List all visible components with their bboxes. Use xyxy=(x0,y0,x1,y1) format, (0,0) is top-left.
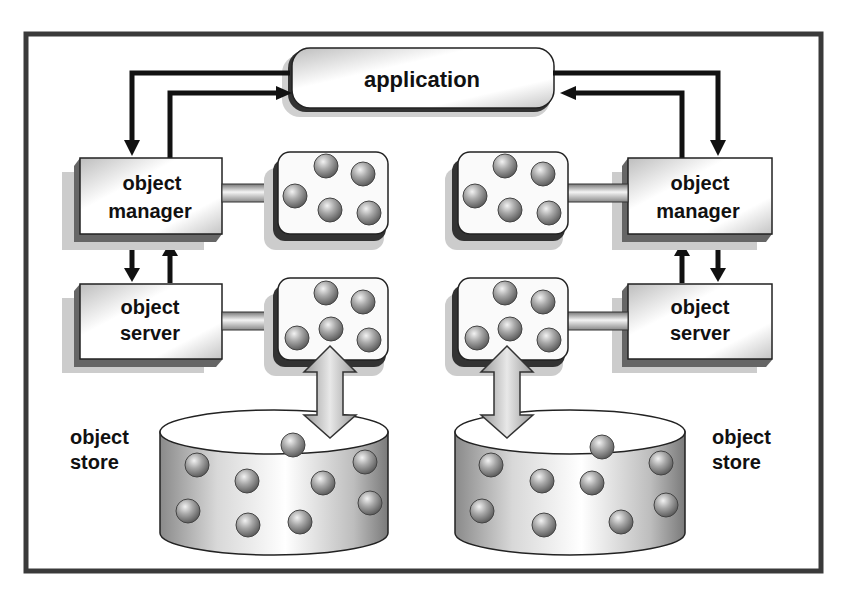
left-manager-label-2: manager xyxy=(108,200,192,222)
right-object-store-cylinder xyxy=(455,410,685,555)
right-object-manager: object manager xyxy=(612,158,772,250)
right-store-label-1: object xyxy=(712,426,771,448)
right-server-label-1: object xyxy=(671,296,730,318)
architecture-diagram: application object manager object serve xyxy=(0,0,841,592)
right-store-label-2: store xyxy=(712,451,761,473)
application-node: application xyxy=(282,48,554,117)
right-server-label-2: server xyxy=(670,322,730,344)
left-object-store-cylinder xyxy=(160,410,388,555)
left-manager-object-pool xyxy=(264,152,388,250)
right-manager-label-2: manager xyxy=(656,200,740,222)
left-server-label-2: server xyxy=(120,322,180,344)
left-store-label-1: object xyxy=(70,426,129,448)
left-object-manager: object manager xyxy=(62,158,222,250)
right-manager-object-pool xyxy=(445,152,568,250)
left-manager-label-1: object xyxy=(123,172,182,194)
right-object-server: object server xyxy=(612,284,772,373)
right-manager-label-1: object xyxy=(671,172,730,194)
left-server-label-1: object xyxy=(121,296,180,318)
left-object-server: object server xyxy=(62,284,222,373)
application-label: application xyxy=(364,67,480,92)
left-store-label-2: store xyxy=(70,451,119,473)
